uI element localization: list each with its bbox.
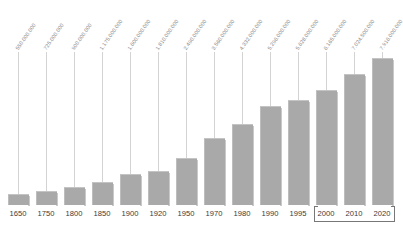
bracket-top-left	[315, 206, 318, 207]
bar	[316, 90, 337, 204]
bar	[176, 158, 197, 204]
value-label: 7.024.500.000	[350, 18, 375, 51]
value-label: 5.296.000.000	[266, 18, 291, 51]
bar	[148, 171, 169, 204]
bar-face	[36, 191, 58, 205]
value-label: 900.000.000	[70, 22, 93, 51]
leader-line	[46, 52, 47, 191]
bar	[64, 187, 85, 204]
year-label: 1980	[228, 209, 256, 218]
leader-line	[354, 52, 355, 74]
value-label: 7.916.000.000	[378, 18, 403, 51]
bar	[92, 182, 113, 204]
bar-face	[204, 138, 226, 205]
leader-line	[242, 52, 243, 124]
bar	[120, 174, 141, 204]
bar-face	[288, 100, 310, 205]
year-label: 1900	[116, 209, 144, 218]
bar-face	[372, 58, 394, 205]
bracket-top-right	[391, 206, 394, 207]
bar-face	[316, 90, 338, 205]
value-label: 6.165.000.000	[322, 18, 347, 51]
year-label: 1950	[172, 209, 200, 218]
bar	[8, 194, 29, 204]
value-label: 5.628.000.000	[294, 18, 319, 51]
leader-line	[130, 52, 131, 174]
bar-face	[232, 124, 254, 205]
leader-line	[214, 52, 215, 138]
bar-face	[92, 182, 114, 205]
year-label: 1995	[284, 209, 312, 218]
bar	[232, 124, 253, 204]
leader-line	[326, 52, 327, 90]
bar-face	[344, 74, 366, 205]
leader-line	[102, 52, 103, 182]
value-label: 4.332.000.000	[238, 18, 263, 51]
bar	[372, 58, 393, 204]
bar	[204, 138, 225, 204]
bar	[260, 106, 281, 204]
year-label: 1800	[60, 209, 88, 218]
bar-face	[64, 187, 86, 205]
bar	[36, 191, 57, 204]
value-label: 1.810.000.000	[154, 18, 179, 51]
bar	[288, 100, 309, 204]
leader-line	[186, 52, 187, 158]
year-label: 1970	[200, 209, 228, 218]
value-label: 550.000.000	[14, 22, 37, 51]
leader-line	[158, 52, 159, 171]
leader-line	[74, 52, 75, 187]
year-label: 1750	[32, 209, 60, 218]
bar-face	[260, 106, 282, 205]
year-label: 1990	[256, 209, 284, 218]
leader-line	[270, 52, 271, 106]
value-label: 1.600.000.000	[126, 18, 151, 51]
bar-face	[8, 194, 30, 205]
projection-bracket	[314, 206, 395, 222]
bar-face	[148, 171, 170, 205]
value-label: 725.000.000	[42, 22, 65, 51]
value-label: 1.175.000.000	[98, 18, 123, 51]
year-label: 1650	[4, 209, 32, 218]
value-label: 2.490.000.000	[182, 18, 207, 51]
year-label: 1920	[144, 209, 172, 218]
bar-face	[120, 174, 142, 205]
leader-line	[18, 52, 19, 194]
year-label: 1850	[88, 209, 116, 218]
bar	[344, 74, 365, 204]
bar-face	[176, 158, 198, 205]
leader-line	[298, 52, 299, 100]
value-label: 3.560.000.000	[210, 18, 235, 51]
